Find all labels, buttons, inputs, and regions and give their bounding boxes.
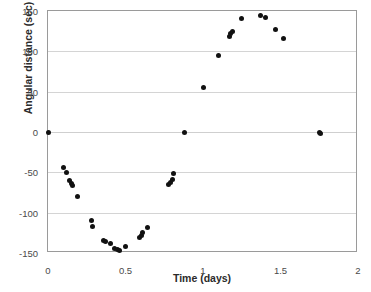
data-point <box>230 29 235 34</box>
data-point <box>145 225 150 230</box>
gridline-y-0 <box>48 132 356 133</box>
data-point <box>318 131 323 136</box>
gridline-y--50 <box>48 172 356 173</box>
data-point <box>90 224 95 229</box>
gridline-y--100 <box>48 213 356 214</box>
data-point <box>182 130 187 135</box>
data-point <box>123 244 128 249</box>
y-tick-label--150: -150 <box>0 248 38 259</box>
plot-area: -150-100-5005010015000.511.52 <box>47 10 357 252</box>
data-point <box>263 15 268 20</box>
y-axis-title: Angular distance (sec) <box>20 0 36 144</box>
gridline-y-100 <box>48 51 356 52</box>
data-point <box>108 241 113 246</box>
data-point <box>75 194 80 199</box>
data-point <box>216 53 221 58</box>
x-axis-title: Time (days) <box>47 272 357 284</box>
data-point <box>239 16 244 21</box>
data-point <box>171 171 176 176</box>
y-tick-label-100: 100 <box>0 46 38 57</box>
y-tick-label-50: 50 <box>0 86 38 97</box>
data-point <box>70 183 75 188</box>
data-point <box>140 230 145 235</box>
y-tick-label-0: 0 <box>0 127 38 138</box>
data-point <box>201 85 206 90</box>
gridline-y-50 <box>48 92 356 93</box>
data-point <box>170 177 175 182</box>
data-point <box>273 27 278 32</box>
scatter-chart-figure: Angular distance (sec) -150-100-50050100… <box>0 0 371 292</box>
data-point <box>64 170 69 175</box>
y-tick-label-150: 150 <box>0 6 38 17</box>
data-point <box>281 36 286 41</box>
data-point <box>89 218 94 223</box>
y-tick-label--50: -50 <box>0 167 38 178</box>
data-point <box>117 248 122 253</box>
y-tick-label--100: -100 <box>0 207 38 218</box>
data-point <box>46 130 51 135</box>
